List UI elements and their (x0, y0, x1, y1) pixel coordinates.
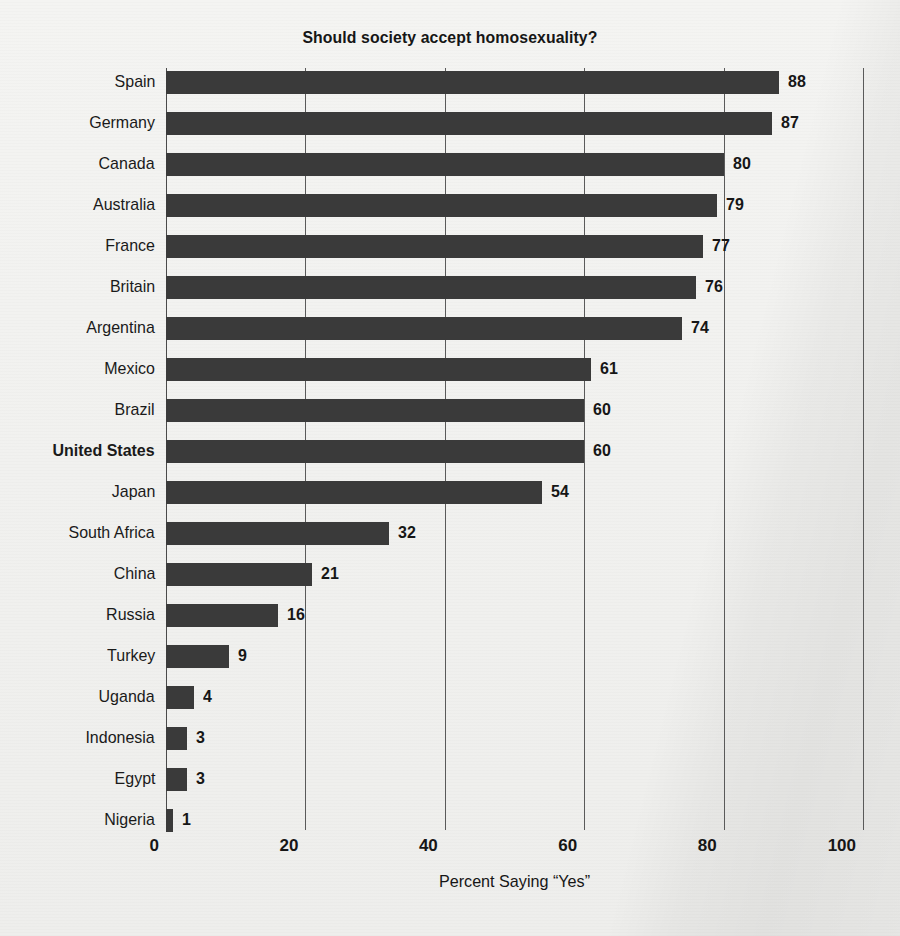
bar-value-label: 88 (788, 70, 806, 93)
bar-row[interactable]: Germany87 (166, 103, 863, 144)
x-tick-label-40: 40 (419, 836, 445, 856)
category-label: Britain (110, 275, 155, 298)
category-label: Brazil (115, 398, 155, 421)
bar-value-label: 4 (203, 685, 212, 708)
bar[interactable] (166, 604, 278, 627)
bar[interactable] (166, 194, 717, 217)
category-label: Australia (93, 193, 155, 216)
bar-row[interactable]: Spain88 (166, 62, 863, 103)
bar[interactable] (166, 358, 591, 381)
category-label: South Africa (69, 521, 155, 544)
bar-value-label: 3 (196, 726, 205, 749)
bar-row[interactable]: Uganda4 (166, 677, 863, 718)
bar[interactable] (166, 481, 542, 504)
category-label: Germany (89, 111, 155, 134)
x-tick-label-0: 0 (150, 836, 166, 856)
category-label: Egypt (114, 767, 155, 790)
bar-row[interactable]: Nigeria1 (166, 800, 863, 841)
bar-row[interactable]: Japan54 (166, 472, 863, 513)
bar[interactable] (166, 71, 779, 94)
bar[interactable] (166, 522, 389, 545)
x-tick-label-20: 20 (279, 836, 305, 856)
bar[interactable] (166, 235, 703, 258)
bar[interactable] (166, 276, 696, 299)
bar[interactable] (166, 686, 194, 709)
category-label: France (105, 234, 155, 257)
category-label: Argentina (87, 316, 155, 339)
category-label: China (113, 562, 155, 585)
bar-row[interactable]: Australia79 (166, 185, 863, 226)
bar-value-label: 1 (182, 808, 191, 831)
bar-row[interactable]: Turkey9 (166, 636, 863, 677)
bar-value-label: 60 (593, 439, 611, 462)
bar[interactable] (166, 563, 312, 586)
bar-row[interactable]: South Africa32 (166, 513, 863, 554)
bar-value-label: 87 (781, 111, 799, 134)
bar-row[interactable]: United States60 (166, 431, 863, 472)
x-tick-label-80: 80 (698, 836, 724, 856)
category-label: Canada (99, 152, 155, 175)
bar[interactable] (166, 317, 682, 340)
bar[interactable] (166, 112, 772, 135)
bar-value-label: 76 (705, 275, 723, 298)
x-axis-ticks: 020406080100 (166, 836, 863, 860)
bar-value-label: 77 (712, 234, 730, 257)
bar[interactable] (166, 809, 173, 832)
x-axis-label: Percent Saying “Yes” (183, 872, 845, 892)
category-label: United States (53, 439, 155, 462)
bar-row[interactable]: Indonesia3 (166, 718, 863, 759)
x-tick-label-60: 60 (558, 836, 584, 856)
bar-row[interactable]: Russia16 (166, 595, 863, 636)
bar-value-label: 21 (321, 562, 339, 585)
bar[interactable] (166, 440, 584, 463)
bar[interactable] (166, 153, 724, 176)
bar-row[interactable]: Britain76 (166, 267, 863, 308)
bar-value-label: 80 (733, 152, 751, 175)
bar[interactable] (166, 399, 584, 422)
bar-row[interactable]: China21 (166, 554, 863, 595)
category-label: Mexico (104, 357, 155, 380)
bar[interactable] (166, 768, 187, 791)
category-label: Turkey (107, 644, 155, 667)
bar-row[interactable]: Argentina74 (166, 308, 863, 349)
category-label: Russia (106, 603, 155, 626)
category-label: Uganda (99, 685, 155, 708)
bar-value-label: 3 (196, 767, 205, 790)
category-label: Spain (114, 70, 155, 93)
bar-value-label: 74 (691, 316, 709, 339)
category-label: Nigeria (104, 808, 155, 831)
bar-value-label: 32 (398, 521, 416, 544)
category-label: Indonesia (86, 726, 155, 749)
bar-row[interactable]: Canada80 (166, 144, 863, 185)
bar-row[interactable]: France77 (166, 226, 863, 267)
bar-value-label: 60 (593, 398, 611, 421)
bar-value-label: 16 (287, 603, 305, 626)
bar-chart: Should society accept homosexuality? Spa… (0, 0, 900, 936)
bar-value-label: 61 (600, 357, 618, 380)
bar-row[interactable]: Egypt3 (166, 759, 863, 800)
bar[interactable] (166, 727, 187, 750)
bar-row[interactable]: Mexico61 (166, 349, 863, 390)
bar-value-label: 9 (238, 644, 247, 667)
gridline-100 (863, 68, 864, 830)
chart-title: Should society accept homosexuality? (32, 28, 869, 48)
bar-value-label: 79 (726, 193, 744, 216)
bar[interactable] (166, 645, 229, 668)
x-tick-label-100: 100 (828, 836, 863, 856)
bar-row[interactable]: Brazil60 (166, 390, 863, 431)
bar-value-label: 54 (551, 480, 569, 503)
plot-area: Spain88Germany87Canada80Australia79Franc… (166, 68, 863, 830)
category-label: Japan (111, 480, 155, 503)
